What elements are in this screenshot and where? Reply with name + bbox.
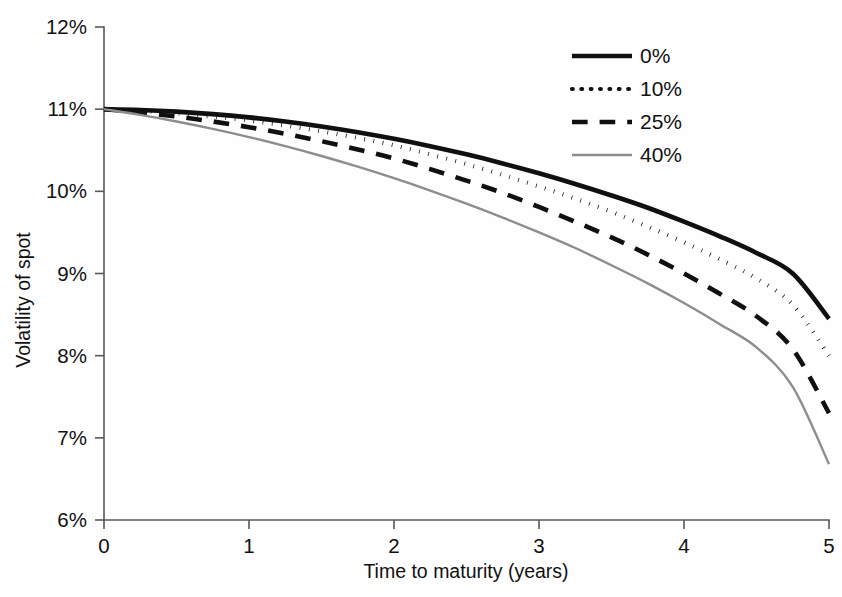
x-tick-label: 3 <box>533 534 544 557</box>
x-axis-ticks <box>104 520 829 529</box>
x-tick-label: 0 <box>98 534 109 557</box>
x-tick-label: 1 <box>243 534 254 557</box>
x-axis-tick-labels: 012345 <box>98 534 834 557</box>
legend-label: 40% <box>640 143 682 166</box>
legend-label: 0% <box>640 44 670 67</box>
data-series-group <box>104 109 829 464</box>
y-tick-label: 6% <box>57 508 87 531</box>
volatility-line-chart: 6%7%8%9%10%11%12% 012345 Volatility of s… <box>0 0 842 597</box>
x-tick-label: 4 <box>678 534 689 557</box>
y-tick-label: 11% <box>47 97 87 120</box>
y-tick-label: 10% <box>46 179 87 202</box>
legend-label: 10% <box>640 77 682 100</box>
x-axis-title: Time to maturity (years) <box>363 560 568 582</box>
series-line-10pct <box>104 109 829 356</box>
series-line-40pct <box>104 109 829 464</box>
y-tick-label: 9% <box>57 262 87 285</box>
legend-label: 25% <box>640 110 682 133</box>
axes <box>95 27 829 529</box>
y-axis-ticks <box>95 27 104 520</box>
y-axis-title: Volatility of spot <box>12 232 34 368</box>
figure-container: 6%7%8%9%10%11%12% 012345 Volatility of s… <box>0 0 842 597</box>
y-tick-label: 7% <box>57 426 87 449</box>
series-line-0pct <box>104 109 829 319</box>
chart-legend: 0%10%25%40% <box>572 44 682 166</box>
y-tick-label: 8% <box>57 344 87 367</box>
y-axis-tick-labels: 6%7%8%9%10%11%12% <box>46 15 87 531</box>
x-tick-label: 2 <box>388 534 399 557</box>
x-tick-label: 5 <box>823 534 834 557</box>
y-tick-label: 12% <box>46 15 87 38</box>
